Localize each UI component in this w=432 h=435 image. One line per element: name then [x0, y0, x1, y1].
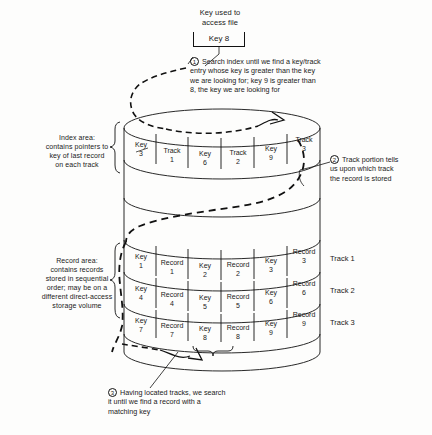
- search-path-top: [131, 68, 186, 129]
- search-arrow-top: [270, 112, 284, 124]
- cylinder-bottom-arc: [124, 352, 320, 371]
- track3-cell-2-label: Key: [190, 325, 220, 333]
- blank-band-arc: [124, 198, 320, 217]
- track-label-1: Track 1: [330, 254, 355, 263]
- track2-cell-2-value: 5: [190, 303, 220, 311]
- track3-cell-1-label: Record: [156, 322, 188, 330]
- index-cell-3-label: Track: [223, 149, 253, 157]
- indexed-sequential-file-diagram: Key used to access file Key 8: [0, 0, 432, 435]
- track2-cell-0-value: 4: [128, 294, 154, 302]
- track2-cell-1-value: 4: [156, 300, 188, 308]
- track1-cell-1-value: 1: [156, 268, 188, 276]
- track3-cell-1-value: 7: [156, 331, 188, 339]
- track-label-2: Track 2: [330, 286, 355, 295]
- index-cell-2-value: 6: [190, 159, 220, 167]
- track1-cell-3-label: Record: [222, 261, 254, 269]
- track2-cell-4-label: Key: [256, 289, 286, 297]
- track2-cell-5-value: 6: [288, 289, 320, 297]
- track3-cell-5-value: 9: [288, 320, 320, 328]
- track3-cell-0-value: 7: [128, 326, 154, 334]
- track2-cell-3-label: Record: [222, 293, 254, 301]
- track1-cell-5-label: Record: [288, 248, 320, 256]
- track3-cell-2-value: 8: [190, 334, 220, 342]
- track1-cell-1-label: Record: [156, 259, 188, 267]
- track3-cell-3-value: 8: [222, 333, 254, 341]
- annotation-3-number: 3: [108, 388, 117, 397]
- track2-cell-0-label: Key: [128, 285, 154, 293]
- index-cell-2-label: Key: [190, 150, 220, 158]
- track2-cell-4-value: 6: [256, 298, 286, 306]
- annotation-1-text: Search index until we find a key/track e…: [190, 57, 321, 94]
- index-cell-5-value: 3: [289, 145, 319, 153]
- index-cell-4-value: 9: [256, 154, 286, 162]
- annotation-1-number: 1: [190, 57, 199, 66]
- annotation-3-text: Having located tracks, we search it unti…: [108, 388, 225, 416]
- index-area-label: Index area: contains pointers to key of …: [18, 133, 136, 169]
- track1-cell-2-label: Key: [190, 262, 220, 270]
- track2-cell-2-label: Key: [190, 294, 220, 302]
- track3-cell-4-label: Key: [256, 320, 286, 328]
- annotation-3: 3 Having located tracks, we search it un…: [108, 388, 308, 416]
- index-cell-4-label: Key: [256, 145, 286, 153]
- index-cell-1-value: 1: [157, 156, 187, 164]
- index-cell-5-label: Track: [289, 136, 319, 144]
- track2-cell-1-label: Record: [156, 291, 188, 299]
- record-area-label: Record area: contains records stored in …: [18, 256, 136, 310]
- track1-cell-3-value: 2: [222, 270, 254, 278]
- index-cell-0-value: 3: [128, 150, 154, 158]
- track1-cell-4-value: 3: [256, 266, 286, 274]
- track1-cell-0-label: Key: [128, 253, 154, 261]
- track1-cell-2-value: 2: [190, 271, 220, 279]
- annotation-2-text: Track portion tells us upon which track …: [330, 155, 398, 183]
- index-cell-0-label: Key: [128, 141, 154, 149]
- track3-cell-5-label: Record: [288, 311, 320, 319]
- track2-cell-5-label: Record: [288, 280, 320, 288]
- annotation-1: 1 Search index until we find a key/track…: [190, 57, 420, 95]
- track3-cell-4-value: 9: [256, 329, 286, 337]
- index-cell-1-label: Track: [157, 147, 187, 155]
- track1-cell-5-value: 3: [288, 257, 320, 265]
- track1-cell-4-label: Key: [256, 257, 286, 265]
- index-band-arc: [124, 160, 320, 179]
- track-label-3: Track 3: [330, 318, 355, 327]
- track3-cell-3-label: Record: [222, 324, 254, 332]
- search-path-top-face: [166, 126, 258, 133]
- annotation-2-number: 2: [330, 155, 339, 164]
- track1-cell-0-value: 1: [128, 262, 154, 270]
- index-cell-3-value: 2: [223, 158, 253, 166]
- annotation-2: 2 Track portion tells us upon which trac…: [330, 155, 432, 183]
- track2-cell-3-value: 5: [222, 302, 254, 310]
- track3-cell-0-label: Key: [128, 317, 154, 325]
